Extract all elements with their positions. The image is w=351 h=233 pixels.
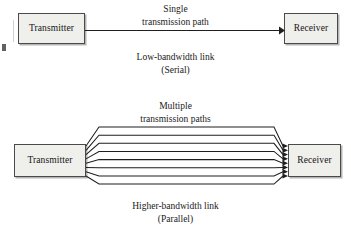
parallel-link-caption-line2: (Parallel) <box>0 213 351 226</box>
parallel-path-caption: Multiple transmission paths <box>0 100 351 125</box>
serial-link-caption: Low-bandwidth link (Serial) <box>0 51 351 76</box>
parallel-path-line <box>86 172 283 176</box>
serial-link-caption-line1: Low-bandwidth link <box>0 51 351 64</box>
serial-link-caption-line2: (Serial) <box>0 64 351 77</box>
parallel-path-line <box>86 135 283 150</box>
serial-receiver-box: Receiver <box>284 13 338 44</box>
parallel-path-caption-line2: transmission paths <box>0 113 351 126</box>
parallel-receiver-label: Receiver <box>297 156 332 166</box>
scan-artifact-mark <box>2 44 6 51</box>
parallel-path-line <box>86 143 283 154</box>
parallel-transmitter-box: Transmitter <box>14 144 86 177</box>
parallel-path-caption-line1: Multiple <box>0 100 351 113</box>
parallel-path-line <box>86 127 283 146</box>
transmission-link-figure: Single transmission path Transmitter Rec… <box>0 0 351 233</box>
parallel-link-caption-line1: Higher-bandwidth link <box>0 200 351 213</box>
scan-artifact-line <box>13 20 14 42</box>
parallel-link-caption: Higher-bandwidth link (Parallel) <box>0 200 351 225</box>
parallel-transmission-paths-group <box>86 127 288 184</box>
parallel-path-line <box>86 160 283 164</box>
parallel-path-line <box>86 176 283 184</box>
parallel-path-line <box>86 151 283 158</box>
serial-transmitter-box: Transmitter <box>18 13 85 44</box>
serial-transmitter-label: Transmitter <box>29 24 74 34</box>
parallel-transmitter-label: Transmitter <box>27 156 72 166</box>
serial-receiver-label: Receiver <box>294 24 329 34</box>
parallel-receiver-box: Receiver <box>288 144 341 177</box>
